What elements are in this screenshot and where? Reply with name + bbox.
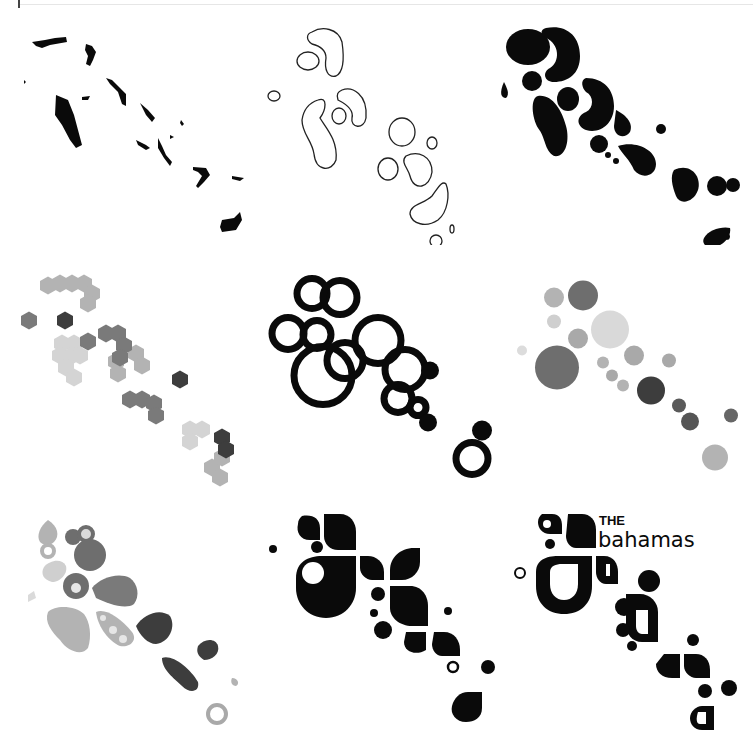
ring-circles-graphic	[250, 260, 500, 505]
logo-the-text: THE	[599, 513, 625, 528]
petal-mark-graphic	[250, 500, 500, 745]
panel-hexagon-clusters	[0, 260, 250, 505]
hexagon-clusters-graphic	[0, 260, 250, 505]
panel-grey-clouds	[0, 500, 250, 745]
grey-clouds-graphic	[0, 500, 250, 745]
panel-final-logo: THE bahamas	[500, 500, 753, 745]
outline-sketch-graphic	[250, 0, 500, 245]
panel-grey-dots	[500, 260, 753, 505]
panel-ink-blobs	[490, 0, 753, 245]
map-silhouette-graphic	[0, 0, 250, 245]
bahamas-logo-graphic: THE bahamas	[500, 500, 753, 745]
panel-map-silhouette	[0, 0, 250, 245]
ink-blobs-graphic	[490, 0, 753, 245]
panel-outline-sketch	[250, 0, 500, 245]
panel-petal-mark	[250, 500, 500, 745]
logo-wordmark: bahamas	[598, 528, 695, 552]
grey-dots-graphic	[500, 260, 753, 505]
panel-ring-circles	[250, 260, 500, 505]
